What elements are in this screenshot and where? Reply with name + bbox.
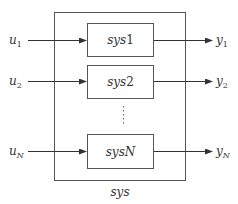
block-row-n: uN sysN yN <box>9 135 231 169</box>
block-label-sys2: sys2 <box>107 75 134 89</box>
block-label-sys1: sys1 <box>107 33 134 47</box>
block-row-2: u2 sys2 y2 <box>9 66 228 99</box>
output-label-yN: yN <box>215 144 231 160</box>
block-row-1: u1 sys1 y1 <box>9 24 228 57</box>
input-label-u1: u1 <box>9 33 22 49</box>
output-label-y1: y1 <box>215 33 228 49</box>
outer-system-label: sys <box>110 185 129 199</box>
input-label-uN: uN <box>9 144 25 160</box>
input-label-u2: u2 <box>9 74 22 90</box>
output-label-y2: y2 <box>215 74 228 90</box>
block-label-sysN: sysN <box>106 145 136 159</box>
block-diagram: u1 sys1 y1 u2 sys2 y2 uN sysN yN sys <box>0 0 238 204</box>
